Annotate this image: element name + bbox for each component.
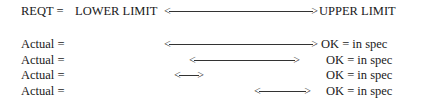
arrow-line bbox=[169, 44, 313, 45]
arrow-line bbox=[194, 60, 295, 61]
actual-range-arrow: < > bbox=[165, 40, 317, 50]
actual-label: Actual = bbox=[21, 68, 65, 82]
arrow-right-head-icon: > bbox=[311, 37, 318, 51]
lower-limit-label: LOWER LIMIT bbox=[75, 4, 157, 18]
result-text: OK = in spec bbox=[321, 37, 387, 51]
actual-range-arrow: < > bbox=[190, 56, 299, 66]
result-text: OK = in spec bbox=[326, 84, 392, 98]
actual-label: Actual = bbox=[21, 37, 65, 51]
actual-range-arrow: < > bbox=[255, 87, 310, 97]
result-text: OK = in spec bbox=[326, 68, 392, 82]
requirement-range-arrow: < > bbox=[165, 7, 317, 17]
reqt-label: REQT = bbox=[21, 4, 64, 18]
upper-limit-label: UPPER LIMIT bbox=[319, 4, 396, 18]
actual-label: Actual = bbox=[21, 53, 65, 67]
arrow-right-head-icon: > bbox=[304, 84, 311, 98]
arrow-line bbox=[169, 11, 313, 12]
arrow-right-head-icon: > bbox=[197, 68, 204, 82]
arrow-right-head-icon: > bbox=[293, 53, 300, 67]
actual-range-arrow: < > bbox=[175, 71, 203, 81]
arrow-line bbox=[179, 75, 199, 76]
result-text: OK = in spec bbox=[326, 53, 392, 67]
arrow-line bbox=[259, 91, 306, 92]
arrow-right-head-icon: > bbox=[311, 4, 318, 18]
actual-label: Actual = bbox=[21, 84, 65, 98]
